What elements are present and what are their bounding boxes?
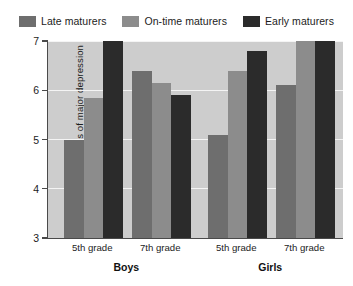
legend-label: Early maturers [265,16,334,27]
x-axis-grade-label: 7th grade [284,243,325,253]
legend-swatch-icon [243,16,260,27]
bar [152,83,172,238]
x-axis-grade-label: 5th grade [216,243,257,253]
legend-entry: Early maturers [243,16,334,27]
bar [64,140,84,239]
y-axis-tick [42,188,48,189]
y-axis-tick-label: 5 [33,134,39,145]
legend-swatch-icon [122,16,139,27]
x-axis-group-label: Boys [113,262,139,273]
x-axis-group-label: Girls [258,262,282,273]
bar [315,41,335,238]
y-axis-tick-label: 7 [33,36,39,47]
bar [132,71,152,238]
x-axis-grade-label: 5th grade [72,243,113,253]
y-axis-tick-label: 4 [33,184,39,195]
bar [171,95,191,238]
y-axis-tick-label: 3 [33,233,39,244]
legend-label: On-time maturers [144,16,226,27]
legend-entry: On-time maturers [122,16,226,27]
bar [276,85,296,238]
x-axis-grade-label: 7th grade [140,243,181,253]
bar [296,41,316,238]
legend-entry: Late maturers [19,16,106,27]
y-axis-tick-label: 6 [33,85,39,96]
y-axis-tick [42,90,48,91]
bar [103,41,123,238]
legend-swatch-icon [19,16,36,27]
y-axis-tick [42,237,48,238]
y-axis-tick [42,40,48,41]
chart-legend: Late maturersOn-time maturersEarly matur… [0,10,353,32]
bar [247,51,267,238]
y-axis-tick [42,139,48,140]
bar [208,135,228,238]
bar [228,71,248,238]
bars-container [48,41,343,238]
bar [84,98,104,238]
chart-plot-area: Symptoms of major depression 34567 [47,41,343,239]
